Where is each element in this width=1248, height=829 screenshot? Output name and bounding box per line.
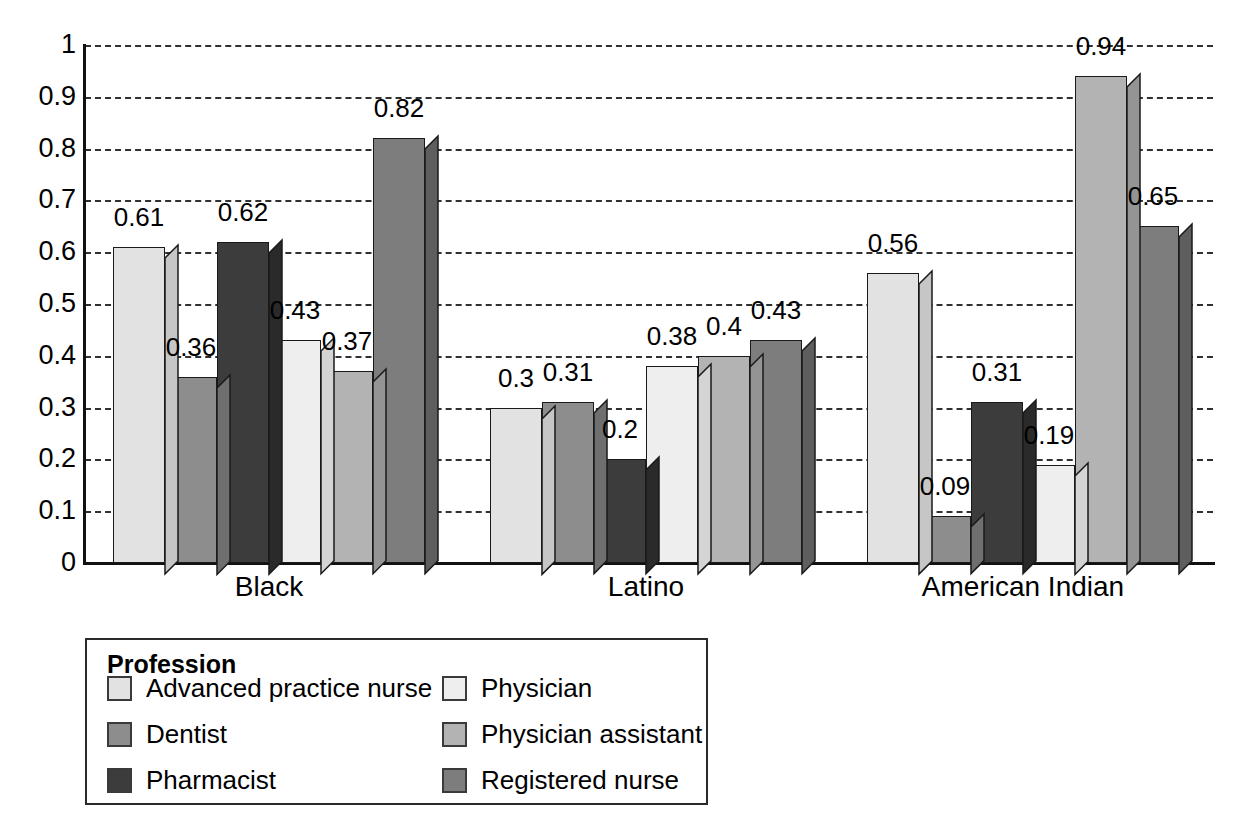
bar-side-panel <box>802 340 815 563</box>
legend: Profession Advanced practice nurseDentis… <box>85 638 708 805</box>
bar-value-label: 0.36 <box>131 334 251 360</box>
y-axis-tick-label: 0.1 <box>16 497 76 524</box>
bar-side-panel <box>542 408 555 563</box>
bar-side-panel <box>217 377 230 563</box>
legend-item[interactable]: Registered nurse <box>442 763 679 797</box>
bar-face <box>490 408 542 563</box>
bar <box>490 408 542 563</box>
bar-value-label: 0.56 <box>833 230 953 256</box>
legend-swatch-icon <box>442 768 467 793</box>
bar-side-panel <box>373 371 386 563</box>
bar-side-panel <box>425 138 438 563</box>
bar-value-label: 0.94 <box>1041 33 1161 59</box>
legend-item-label: Dentist <box>146 719 227 749</box>
bar-value-label: 0.61 <box>79 204 199 230</box>
bar-value-label: 0.2 <box>560 416 680 442</box>
legend-item[interactable]: Physician <box>442 671 592 705</box>
bar-face <box>867 273 919 563</box>
legend-item[interactable]: Dentist <box>107 717 227 751</box>
bar-value-label: 0.31 <box>508 359 628 385</box>
legend-item-label: Physician <box>481 673 592 703</box>
legend-item-label: Physician assistant <box>481 719 702 749</box>
bar-side-panel <box>269 242 282 563</box>
bar-side-panel <box>646 459 659 563</box>
bar-value-label: 0.43 <box>235 297 355 323</box>
gridline <box>85 97 1213 99</box>
bar-value-label: 0.65 <box>1093 183 1213 209</box>
y-axis-tick-label: 0.3 <box>16 394 76 421</box>
legend-item[interactable]: Advanced practice nurse <box>107 671 432 705</box>
y-axis-tick-label: 0 <box>16 549 76 576</box>
legend-item[interactable]: Physician assistant <box>442 717 702 751</box>
y-axis-tick-label: 0.4 <box>16 342 76 369</box>
bar <box>867 273 919 563</box>
bar-value-label: 0.31 <box>937 359 1057 385</box>
legend-swatch-icon <box>107 768 132 793</box>
legend-swatch-icon <box>107 676 132 701</box>
bar-side-panel <box>971 516 984 563</box>
legend-item-label: Advanced practice nurse <box>146 673 432 703</box>
y-axis-tick-label: 1 <box>16 31 76 58</box>
legend-item-label: Registered nurse <box>481 765 679 795</box>
bar-value-label: 0.37 <box>287 328 407 354</box>
legend-item-label: Pharmacist <box>146 765 276 795</box>
bar-side-panel <box>165 247 178 563</box>
bar-value-label: 0.09 <box>885 473 1005 499</box>
bar-side-panel <box>919 273 932 563</box>
legend-swatch-icon <box>442 676 467 701</box>
bar-chart: 0.610.360.620.430.370.820.30.310.20.380.… <box>0 0 1248 829</box>
bar-value-label: 0.82 <box>339 95 459 121</box>
gridline <box>85 149 1213 151</box>
bar-side-panel <box>1179 226 1192 563</box>
y-axis-tick-label: 0.7 <box>16 186 76 213</box>
y-axis-tick-label: 0.6 <box>16 238 76 265</box>
plot-area: 0.610.360.620.430.370.820.30.310.20.380.… <box>85 45 1213 563</box>
bar-side-panel <box>750 356 763 563</box>
legend-item[interactable]: Pharmacist <box>107 763 276 797</box>
y-axis-tick-label: 0.8 <box>16 135 76 162</box>
bar-side-panel <box>698 366 711 563</box>
bar-value-label: 0.62 <box>183 199 303 225</box>
legend-swatch-icon <box>442 722 467 747</box>
bar <box>113 247 165 563</box>
bar-value-label: 0.19 <box>989 422 1109 448</box>
y-axis-tick-label: 0.5 <box>16 290 76 317</box>
y-axis-tick-label: 0.2 <box>16 445 76 472</box>
bar-value-label: 0.43 <box>716 297 836 323</box>
y-axis-line <box>83 44 86 565</box>
bar-side-panel <box>1075 465 1088 563</box>
bar-side-panel <box>321 340 334 563</box>
bar-face <box>113 247 165 563</box>
legend-swatch-icon <box>107 722 132 747</box>
bar-side-panel <box>1127 76 1140 563</box>
y-axis-tick-label: 0.9 <box>16 83 76 110</box>
